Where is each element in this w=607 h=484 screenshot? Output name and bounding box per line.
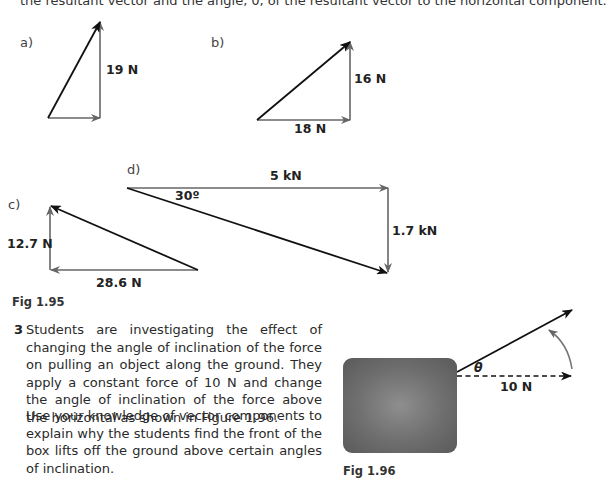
figure-195-caption: Fig 1.95 — [12, 295, 64, 309]
part-c-horizontal-label: 28.6 N — [96, 275, 142, 290]
part-d-vertical-label: 1.7 kN — [392, 223, 437, 238]
vector-triangle-b — [257, 42, 350, 120]
part-c-vertical-label: 12.7 N — [7, 236, 53, 251]
part-d-horizontal-label: 5 kN — [270, 168, 302, 183]
figure-196-caption: Fig 1.96 — [343, 464, 395, 478]
part-b-horizontal-label: 18 N — [294, 121, 326, 136]
part-b-vertical-label: 16 N — [354, 71, 386, 86]
part-a-vertical-label: 19 N — [106, 62, 138, 77]
question-number: 3 — [14, 322, 23, 337]
force-magnitude-label: 10 N — [500, 379, 532, 394]
vector-triangle-c — [50, 206, 198, 270]
part-b-label: b) — [211, 35, 224, 50]
theta-angle-label: θ — [474, 360, 483, 375]
part-a-label: a) — [20, 35, 33, 50]
part-c-label: c) — [8, 197, 20, 212]
part-d-label: d) — [127, 162, 140, 177]
vector-triangle-a — [48, 22, 100, 118]
part-d-angle-label: 30º — [175, 188, 199, 203]
box-object — [343, 358, 457, 453]
vector-triangle-d — [127, 188, 388, 273]
question-paragraph-2: Use your knowledge of vector components … — [26, 407, 322, 477]
